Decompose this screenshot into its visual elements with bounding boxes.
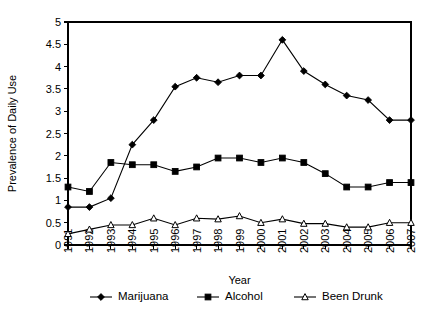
- marker-square: [205, 294, 211, 300]
- marker-diamond: [279, 36, 286, 43]
- marker-diamond: [65, 204, 72, 211]
- marker-diamond: [215, 79, 222, 86]
- marker-diamond: [98, 294, 105, 301]
- legend-item-marijuana: Marijuana: [90, 290, 169, 302]
- marker-square: [215, 155, 221, 161]
- chart-container: 00.511.522.533.544.551991199219931994199…: [0, 0, 427, 318]
- series-line-alcohol: [68, 158, 411, 191]
- marker-square: [65, 184, 71, 190]
- marker-square: [237, 155, 243, 161]
- series-line-marijuana: [68, 40, 411, 207]
- x-tick-label: 2006: [384, 229, 396, 253]
- marker-square: [408, 180, 414, 186]
- legend-label: Been Drunk: [322, 290, 383, 302]
- x-tick-label: 2001: [276, 229, 288, 253]
- marker-square: [387, 180, 393, 186]
- y-tick-label: 2: [55, 150, 61, 162]
- marker-triangle: [279, 216, 285, 222]
- x-tick-label: 2004: [341, 229, 353, 253]
- marker-square: [87, 189, 93, 195]
- marker-square: [365, 184, 371, 190]
- x-tick-label: 1998: [212, 229, 224, 253]
- marker-square: [258, 160, 264, 166]
- marker-diamond: [258, 72, 265, 79]
- legend-item-alcohol: Alcohol: [197, 290, 263, 302]
- marker-square: [344, 184, 350, 190]
- legend-label: Marijuana: [118, 290, 169, 302]
- series-marijuana: [65, 36, 415, 210]
- y-tick-label: 4.5: [46, 38, 61, 50]
- x-tick-label: 1994: [126, 229, 138, 253]
- y-tick-label: 0: [55, 239, 61, 251]
- y-tick-label: 3.5: [46, 83, 61, 95]
- y-tick-label: 3: [55, 105, 61, 117]
- marker-diamond: [236, 72, 243, 79]
- marker-square: [322, 171, 328, 177]
- x-tick-label: 1993: [105, 229, 117, 253]
- legend-item-been-drunk: Been Drunk: [294, 290, 383, 302]
- marker-square: [301, 160, 307, 166]
- marker-square: [279, 155, 285, 161]
- y-tick-label: 1.5: [46, 172, 61, 184]
- marker-diamond: [300, 68, 307, 75]
- x-tick-label: 2003: [319, 229, 331, 253]
- x-tick-label: 1996: [169, 229, 181, 253]
- marker-square: [151, 162, 157, 168]
- x-tick-label: 1999: [234, 229, 246, 253]
- series-alcohol: [65, 155, 414, 194]
- marker-diamond: [408, 117, 415, 124]
- x-tick-label: 2005: [362, 229, 374, 253]
- x-tick-label: 2002: [298, 229, 310, 253]
- marker-diamond: [343, 92, 350, 99]
- x-axis-title: Year: [228, 274, 251, 286]
- line-chart: 00.511.522.533.544.551991199219931994199…: [0, 0, 427, 318]
- x-tick-label: 2000: [255, 229, 267, 253]
- legend-label: Alcohol: [225, 290, 263, 302]
- marker-diamond: [322, 81, 329, 88]
- y-tick-label: 5: [55, 16, 61, 28]
- x-tick-label: 2007: [405, 229, 417, 253]
- marker-triangle: [236, 213, 242, 219]
- y-tick-label: 2.5: [46, 128, 61, 140]
- marker-diamond: [193, 74, 200, 81]
- marker-diamond: [86, 204, 93, 211]
- x-tick-label: 1995: [148, 229, 160, 253]
- y-axis-title: Prevalence of Daily Use: [6, 75, 18, 192]
- marker-diamond: [107, 195, 114, 202]
- y-tick-label: 1: [55, 194, 61, 206]
- marker-square: [108, 160, 114, 166]
- y-tick-label: 0.5: [46, 217, 61, 229]
- x-tick-label: 1997: [191, 229, 203, 253]
- marker-square: [129, 162, 135, 168]
- marker-diamond: [172, 83, 179, 90]
- marker-triangle: [151, 215, 157, 221]
- y-tick-label: 4: [55, 61, 61, 73]
- marker-square: [172, 169, 178, 175]
- marker-square: [194, 164, 200, 170]
